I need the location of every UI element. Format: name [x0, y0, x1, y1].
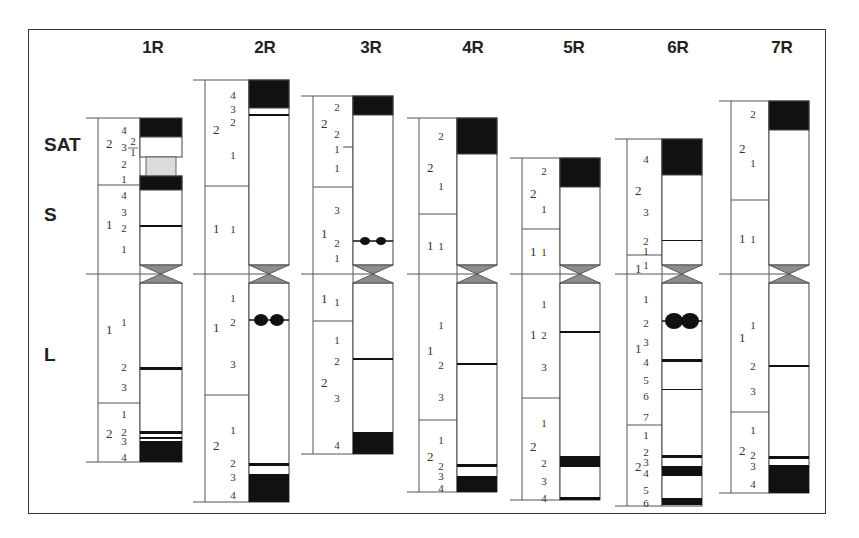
band-label: 3	[750, 460, 756, 472]
band-label: 1	[438, 319, 444, 331]
terminal-heterochromatin	[769, 465, 809, 493]
chromosome-body	[457, 118, 497, 492]
band-label: 1	[643, 293, 649, 305]
thin-band	[769, 365, 809, 367]
band-label: 1	[438, 240, 444, 252]
chromosome-header: 4R	[462, 38, 484, 57]
thin-band	[249, 463, 289, 466]
region-label: 1	[321, 226, 328, 241]
region-label: 2	[213, 122, 220, 137]
region-label: 2	[530, 186, 537, 201]
band-label: 3	[643, 336, 649, 348]
band-label: 3	[121, 381, 127, 393]
chromosome-2r: 2R2112432111231234	[193, 38, 289, 502]
thin-band	[560, 331, 600, 333]
band-label: 1	[643, 245, 649, 257]
chromosome-header: 6R	[667, 38, 689, 57]
band-label: 3	[334, 392, 340, 404]
band-label: 4	[643, 467, 649, 479]
heterochromatin-band	[249, 80, 289, 108]
band-label: 1	[121, 408, 127, 420]
region-label: 2	[635, 183, 642, 198]
band-label: 1	[643, 429, 649, 441]
band-label: 2	[230, 116, 236, 128]
band-label: 3	[121, 141, 127, 153]
thin-band	[769, 456, 809, 459]
band-label: 4	[230, 89, 236, 101]
region-label: 1	[213, 221, 220, 236]
thin-band	[560, 497, 600, 500]
band-label: 2	[541, 457, 547, 469]
region-label: 2	[213, 438, 220, 453]
region-label: 1	[321, 291, 328, 306]
region-label: 1	[739, 330, 746, 345]
chromosome-body	[249, 80, 289, 502]
heterochromatin-band	[662, 139, 702, 175]
band-label: 2	[541, 165, 547, 177]
heterochromatin-band	[140, 176, 182, 190]
band-label: 2	[438, 130, 444, 142]
band-label: 4	[438, 482, 444, 494]
terminal-heterochromatin	[140, 441, 182, 462]
row-label-sat: SAT	[44, 134, 81, 155]
satellite-band	[140, 137, 182, 157]
band-label: 1	[334, 334, 340, 346]
band-label: 2	[121, 361, 127, 373]
band-label: 1	[334, 296, 340, 308]
region-label: 2	[106, 426, 113, 441]
band-label: 1	[750, 157, 756, 169]
band-label: 1	[230, 292, 236, 304]
band-label: 1	[438, 434, 444, 446]
band-label: 2	[121, 158, 127, 170]
band-label: 4	[121, 451, 127, 463]
band-label: 1	[121, 243, 127, 255]
band-label: 1	[334, 143, 340, 155]
region-label: 2	[321, 116, 328, 131]
row-label-s: S	[44, 204, 57, 225]
band-label: 1	[643, 259, 649, 271]
band-label: 3	[230, 103, 236, 115]
band-label: 4	[121, 189, 127, 201]
chromosome-header: 1R	[142, 38, 164, 57]
band-label: 2	[750, 360, 756, 372]
band-label: 2	[438, 359, 444, 371]
band-label: 2	[230, 457, 236, 469]
chromosome-body	[769, 101, 809, 493]
terminal-heterochromatin	[249, 474, 289, 502]
region-label: 1	[427, 238, 434, 253]
band-label: 1	[334, 252, 340, 264]
band-label: 4	[121, 124, 127, 136]
region-label: 1	[739, 231, 746, 246]
chromosome-body	[140, 118, 182, 462]
thin-band	[457, 464, 497, 467]
band-label: 5	[643, 374, 649, 386]
region-label: 2	[106, 136, 113, 151]
dark-band	[560, 456, 600, 467]
region-label: 2	[635, 459, 642, 474]
chromosome-7r: 7R21122111231234	[719, 38, 809, 493]
band-label: 1	[121, 316, 127, 328]
band-label: 5	[643, 484, 649, 496]
terminal-heterochromatin	[457, 476, 497, 492]
heterochromatin-band	[353, 96, 393, 115]
chromosome-1r: 1R211243214321123123421	[86, 38, 182, 463]
heterochromatin-band	[457, 118, 497, 154]
band-label: 1	[541, 417, 547, 429]
terminal-heterochromatin	[353, 432, 393, 454]
dark-band	[662, 498, 702, 505]
heterochromatin-band	[140, 118, 182, 137]
band-label: 4	[230, 489, 236, 501]
band-label: 2	[541, 329, 547, 341]
chromosome-body	[353, 96, 393, 454]
chromosome-body	[560, 158, 600, 500]
band-label: 3	[541, 361, 547, 373]
region-label: 2	[530, 439, 537, 454]
region-label: 1	[427, 343, 434, 358]
band-label: 1	[541, 246, 547, 258]
band-label: 2	[334, 237, 340, 249]
band-label: 1	[334, 162, 340, 174]
region-label: 1	[635, 341, 642, 356]
band-label: 1	[121, 173, 127, 185]
dark-band	[662, 466, 702, 476]
band-label: 6	[643, 497, 649, 509]
